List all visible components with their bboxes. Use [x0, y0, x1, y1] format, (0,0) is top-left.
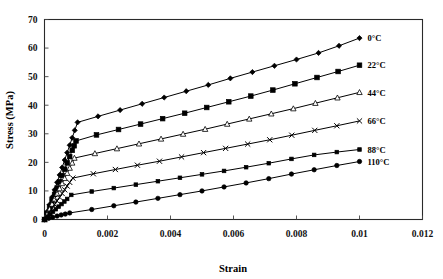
- y-axis-title: Stress (MPa): [4, 91, 16, 149]
- data-point-marker: [357, 63, 362, 68]
- data-point-marker: [55, 214, 59, 218]
- series-label-text: 66°C: [368, 116, 386, 126]
- data-point-marker: [160, 116, 165, 121]
- data-point-marker: [72, 143, 77, 148]
- data-point-marker: [112, 186, 116, 190]
- y-tick-label: 20: [28, 158, 38, 168]
- series-label-44C: 44°C: [368, 88, 386, 98]
- data-point-marker: [267, 176, 271, 180]
- data-point-marker: [94, 133, 99, 138]
- data-point-marker: [357, 159, 361, 163]
- series-label-0C: 0°C: [368, 33, 382, 43]
- series-label-text: 44°C: [368, 88, 386, 98]
- data-point-marker: [70, 148, 75, 153]
- x-tick-label: 0.004: [160, 229, 182, 239]
- x-axis-title: Strain: [219, 263, 247, 274]
- y-tick-label: 40: [28, 101, 38, 111]
- data-point-marker: [69, 193, 73, 197]
- data-point-marker: [315, 75, 320, 80]
- data-point-marker: [178, 176, 182, 180]
- data-point-marker: [68, 211, 72, 215]
- x-tick-label: 0.012: [412, 229, 434, 239]
- series-label-66C: 66°C: [368, 116, 386, 126]
- data-point-marker: [267, 161, 271, 165]
- data-point-marker: [67, 154, 72, 159]
- y-tick-label: 60: [28, 43, 38, 53]
- y-tick-label: 50: [28, 72, 38, 82]
- x-tick-label: 0.008: [286, 229, 308, 239]
- data-point-marker: [46, 216, 50, 220]
- data-point-marker: [204, 105, 209, 110]
- series-label-88C: 88°C: [368, 145, 386, 155]
- data-point-marker: [358, 148, 362, 152]
- data-point-marker: [222, 185, 226, 189]
- series-label-text: 22°C: [368, 60, 386, 70]
- data-point-marker: [156, 196, 160, 200]
- x-tick-label: 0.002: [97, 229, 119, 239]
- x-tick-label: 0: [42, 229, 47, 239]
- x-tick-label: 0.006: [223, 229, 245, 239]
- data-point-marker: [134, 200, 138, 204]
- stress-strain-chart: 010203040506070 00.0020.0040.0060.0080.0…: [0, 0, 443, 279]
- data-point-marker: [182, 111, 187, 116]
- y-tick-label: 10: [28, 186, 38, 196]
- data-point-marker: [335, 163, 339, 167]
- series-label-22C: 22°C: [368, 60, 386, 70]
- data-point-marker: [178, 192, 182, 196]
- data-point-marker: [90, 190, 94, 194]
- data-point-marker: [90, 207, 94, 211]
- data-point-marker: [74, 139, 79, 144]
- data-point-marker: [249, 94, 254, 99]
- y-tick-label: 0: [33, 215, 38, 225]
- data-point-marker: [200, 173, 204, 177]
- series-label-text: 88°C: [368, 145, 386, 155]
- data-point-marker: [244, 165, 248, 169]
- data-point-marker: [336, 69, 341, 74]
- y-tick-label: 70: [28, 15, 38, 25]
- data-point-marker: [312, 168, 316, 172]
- data-point-marker: [312, 153, 316, 157]
- data-point-marker: [156, 179, 160, 183]
- data-point-marker: [226, 99, 231, 104]
- data-point-marker: [244, 181, 248, 185]
- data-point-marker: [293, 81, 298, 86]
- chart-canvas: 010203040506070 00.0020.0040.0060.0080.0…: [0, 0, 443, 279]
- data-point-marker: [65, 161, 70, 166]
- data-point-marker: [50, 215, 54, 219]
- data-point-marker: [42, 217, 46, 221]
- data-point-marker: [335, 150, 339, 154]
- series-label-110C: 110°C: [368, 157, 390, 167]
- data-point-marker: [200, 189, 204, 193]
- data-point-marker: [62, 167, 67, 172]
- data-point-marker: [134, 183, 138, 187]
- data-point-marker: [138, 122, 143, 127]
- data-point-marker: [112, 204, 116, 208]
- data-point-marker: [59, 213, 63, 217]
- x-tick-label: 0.01: [351, 229, 368, 239]
- data-point-marker: [63, 212, 67, 216]
- data-point-marker: [289, 172, 293, 176]
- series-label-text: 110°C: [368, 157, 390, 167]
- data-point-marker: [116, 127, 121, 132]
- data-point-marker: [290, 157, 294, 161]
- series-label-text: 0°C: [368, 33, 382, 43]
- data-point-marker: [271, 88, 276, 93]
- data-point-marker: [65, 197, 69, 201]
- y-tick-label: 30: [28, 129, 38, 139]
- data-point-marker: [222, 169, 226, 173]
